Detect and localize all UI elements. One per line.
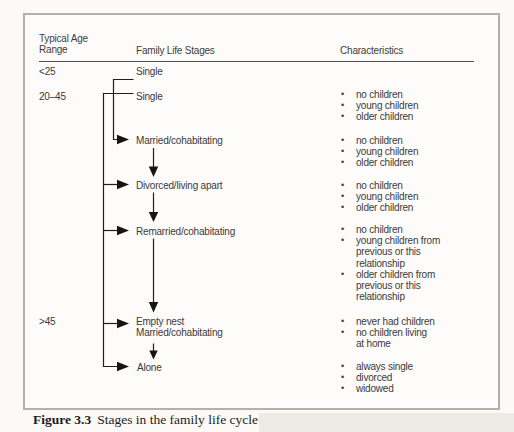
stage-label-empty-nest: Empty nest Married/cohabitating (136, 316, 223, 338)
stage-label-divorced: Divorced/living apart (136, 180, 222, 191)
bullet-item: •young children from (339, 235, 469, 246)
bullet-item: •older children (339, 202, 469, 213)
figure-page: Typical Age Range Family Life Stages Cha… (0, 0, 514, 432)
characteristics-group-divorced: •no children •young children •older chil… (339, 180, 469, 214)
bullet-icon: • (339, 191, 356, 202)
figure-caption-number: Figure 3.3 (33, 412, 91, 427)
bullet-icon: • (339, 235, 356, 246)
stage-label-empty-nest-line1: Empty nest (136, 316, 223, 327)
bullet-icon: • (339, 316, 356, 327)
bullet-item: •no children (339, 89, 469, 100)
bullet-item: •no children (339, 135, 469, 146)
bullet-icon: • (339, 327, 356, 338)
bullet-item: •older children from (339, 269, 469, 280)
stage-label-empty-nest-line2: Married/cohabitating (136, 327, 223, 338)
bullet-item-continuation: relationship (339, 258, 469, 269)
figure-caption: Figure 3.3Stages in the family life cycl… (33, 412, 258, 428)
bullet-icon: • (339, 202, 356, 213)
age-label-over-45: >45 (39, 316, 55, 327)
bullet-item: •older children (339, 157, 469, 168)
bullet-item: •divorced (339, 372, 469, 383)
bullet-item-continuation: previous or this (339, 280, 469, 291)
bullet-icon: • (339, 157, 356, 168)
column-header-characteristics: Characteristics (340, 45, 403, 56)
bullet-icon: • (339, 372, 356, 383)
stage-label-remarried: Remarried/cohabitating (136, 226, 235, 237)
bullet-item: •no children (339, 224, 469, 235)
bullet-icon: • (339, 361, 356, 372)
characteristics-group-married: •no children •young children •older chil… (339, 135, 469, 169)
bullet-item: •young children (339, 100, 469, 111)
page-shade-strip (259, 413, 514, 432)
bullet-icon: • (339, 180, 356, 191)
characteristics-group-empty-nest: •never had children •no children living … (339, 316, 469, 350)
stage-label-single-under-25: Single (136, 66, 163, 77)
stage-label-single-20-45: Single (136, 91, 163, 102)
stage-label-married: Married/cohabitating (136, 135, 223, 146)
bullet-item: •never had children (339, 316, 469, 327)
bullet-icon: • (339, 100, 356, 111)
bullet-item: •widowed (339, 383, 469, 394)
column-header-age: Typical Age Range (39, 33, 105, 55)
characteristics-group-single: •no children •young children •older chil… (339, 89, 469, 123)
age-label-20-45: 20–45 (39, 91, 66, 102)
bullet-item-continuation: previous or this (339, 246, 469, 257)
bullet-icon: • (339, 383, 356, 394)
figure-caption-text: Stages in the family life cycle (97, 412, 258, 427)
bullet-item-continuation: at home (339, 338, 469, 349)
age-label-under-25: <25 (39, 66, 55, 77)
bullet-item-continuation: relationship (339, 291, 469, 302)
characteristics-group-remarried: •no children •young children from previo… (339, 224, 469, 302)
bullet-item: •young children (339, 146, 469, 157)
stage-label-alone: Alone (137, 362, 162, 373)
bullet-item: •young children (339, 191, 469, 202)
bullet-item: •older children (339, 111, 469, 122)
bullet-icon: • (339, 89, 356, 100)
bullet-icon: • (339, 224, 356, 235)
bullet-icon: • (339, 135, 356, 146)
bullet-icon: • (339, 111, 356, 122)
bullet-item: •no children (339, 180, 469, 191)
bullet-icon: • (339, 146, 356, 157)
column-header-stages: Family Life Stages (136, 45, 215, 56)
bullet-icon: • (339, 269, 356, 280)
bullet-item: •no children living (339, 327, 469, 338)
characteristics-group-alone: •always single •divorced •widowed (339, 361, 469, 395)
bullet-item: •always single (339, 361, 469, 372)
